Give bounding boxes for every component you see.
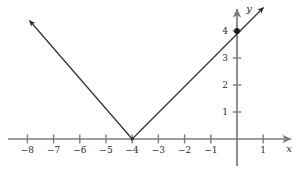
y-tick-label: 4 (222, 26, 228, 36)
x-tick-label: −2 (178, 145, 191, 155)
graph-canvas: −8 −7 −6 −5 −4 −3 −2 −1 1 1 2 3 4 x y (0, 0, 305, 169)
coordinate-graph-figure: −8 −7 −6 −5 −4 −3 −2 −1 1 1 2 3 4 x y (0, 0, 305, 169)
x-axis-label: x (286, 143, 292, 154)
x-tick-labels: −8 −7 −6 −5 −4 −3 −2 −1 1 (21, 145, 266, 155)
y-tick-label: 2 (222, 80, 228, 90)
curve-left-branch (30, 21, 133, 140)
plotted-point-marker (234, 28, 240, 34)
curve-right-branch (132, 8, 263, 140)
x-tick-label: −7 (47, 145, 61, 155)
x-tick-label: −3 (152, 145, 166, 155)
x-tick-label: 1 (260, 145, 266, 155)
axis-group (8, 9, 291, 166)
x-tick-label: −1 (204, 145, 217, 155)
x-tick-label: −6 (73, 145, 87, 155)
y-tick-label: 3 (222, 53, 228, 63)
y-axis-label: y (245, 3, 252, 14)
x-tick-label: −5 (99, 145, 113, 155)
vertex-point-marker (131, 137, 134, 140)
x-tick-label: −4 (126, 145, 140, 155)
x-tick-label: −8 (21, 145, 35, 155)
y-tick-labels: 1 2 3 4 (222, 26, 228, 117)
function-curve-absolute-value (30, 8, 264, 140)
y-tick-label: 1 (222, 107, 228, 117)
